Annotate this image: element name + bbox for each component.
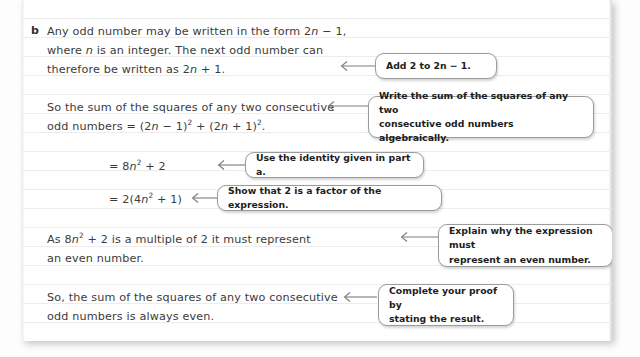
callout-arrow-2 [324, 100, 370, 112]
working-line-5: odd numbers = (2n − 1)2 + (2n + 1)2. [47, 117, 266, 136]
ruled-line [22, 18, 612, 19]
callout-text-2: Write the sum of the squares of any two … [379, 89, 584, 146]
callout-arrow-3 [214, 159, 246, 171]
working-line-10: So, the sum of the squares of any two co… [47, 288, 338, 307]
callout-text-3: Use the identity given in part a. [256, 151, 414, 179]
callout-box-2: Write the sum of the squares of any two … [368, 96, 594, 138]
callout-text-5: Explain why the expression must represen… [449, 224, 603, 267]
exercise-book-page: b Any odd number may be written in the f… [22, 0, 612, 341]
working-line-1: Any odd number may be written in the for… [47, 22, 346, 41]
working-line-3: therefore be written as 2n + 1. [47, 60, 225, 79]
part-label-b: b [31, 24, 39, 37]
working-line-7: = 2(4n2 + 1) [109, 190, 182, 209]
callout-text-6: Complete your proof by stating the resul… [389, 284, 504, 327]
callout-arrow-6 [340, 291, 378, 303]
callout-box-5: Explain why the expression must represen… [438, 224, 612, 267]
callout-text-1: Add 2 to 2n − 1. [386, 59, 471, 73]
working-line-9: an even number. [47, 249, 144, 268]
working-line-8: As 8n2 + 2 is a multiple of 2 it must re… [47, 230, 311, 249]
callout-arrow-1 [337, 60, 377, 72]
callout-arrow-5 [397, 231, 439, 243]
screenshot-root: b Any odd number may be written in the f… [0, 0, 640, 357]
ruled-line [22, 284, 612, 285]
working-line-11: odd numbers is always even. [47, 307, 214, 326]
callout-box-6: Complete your proof by stating the resul… [378, 284, 514, 326]
callout-box-3: Use the identity given in part a. [245, 152, 424, 178]
working-line-2: where n is an integer. The next odd numb… [47, 41, 323, 60]
callout-arrow-4 [188, 192, 218, 204]
callout-box-1: Add 2 to 2n − 1. [375, 53, 497, 79]
callout-text-4: Show that 2 is a factor of the expressio… [228, 184, 432, 212]
working-line-4: So the sum of the squares of any two con… [47, 98, 334, 117]
callout-box-4: Show that 2 is a factor of the expressio… [217, 185, 442, 211]
working-line-6: = 8n2 + 2 [109, 157, 166, 176]
